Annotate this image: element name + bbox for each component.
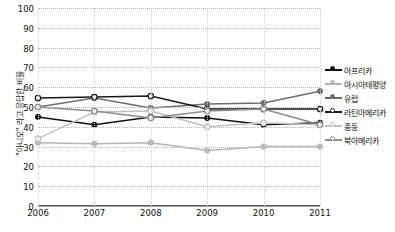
series-아프리카 [35, 114, 322, 127]
legend-marker-icon [325, 77, 342, 91]
y-axis-tick-label: 40 [23, 123, 34, 133]
legend-item-유럽[interactable]: 유럽 [325, 91, 395, 105]
x-axis-tick-label: 2006 [27, 208, 49, 218]
y-axis-tick-label: 30 [23, 143, 34, 153]
y-axis-tick-label: 100 [18, 4, 34, 14]
y-axis-tick-label: 90 [23, 24, 34, 34]
legend-marker-icon [325, 91, 342, 105]
y-gridline: 50 [38, 107, 320, 108]
legend-item-라틴아메리카[interactable]: 라틴아메리카 [325, 105, 395, 119]
legend-item-북아메리카[interactable]: 북아메리카 [325, 133, 395, 147]
y-axis-tick-label: 10 [23, 182, 34, 192]
y-gridline: 20 [38, 166, 320, 167]
legend-marker-icon [325, 105, 342, 119]
legend-label: 북아메리카 [342, 135, 379, 146]
y-axis-tick-label: 60 [23, 83, 34, 93]
legend-marker-icon [325, 119, 342, 133]
x-gridline [151, 8, 152, 206]
x-axis-tick-label: 2009 [196, 208, 218, 218]
y-axis-tick-label: 80 [23, 44, 34, 54]
y-gridline: 30 [38, 147, 320, 148]
y-axis-tick-label: 20 [23, 162, 34, 172]
legend-label: 아시아태평양 [342, 79, 386, 90]
legend-label: 라틴아메리카 [342, 107, 386, 118]
x-gridline [94, 8, 95, 206]
x-axis-tick-label: 2007 [84, 208, 106, 218]
y-gridline: 90 [38, 28, 320, 29]
legend: 아프리카아시아태평양유럽라틴아메리카중동북아메리카 [325, 63, 395, 147]
y-gridline: 60 [38, 87, 320, 88]
x-axis-tick-label: 2008 [140, 208, 162, 218]
y-gridline: 40 [38, 127, 320, 128]
x-gridline [264, 8, 265, 206]
y-gridline: 80 [38, 48, 320, 49]
series-line [38, 91, 320, 108]
x-axis-tick-label: 2010 [253, 208, 275, 218]
y-axis-tick-label: 70 [23, 63, 34, 73]
legend-marker-icon [325, 133, 342, 147]
legend-item-아시아태평양[interactable]: 아시아태평양 [325, 77, 395, 91]
legend-label: 아프리카 [342, 65, 372, 76]
x-gridline [207, 8, 208, 206]
legend-item-아프리카[interactable]: 아프리카 [325, 63, 395, 77]
y-gridline: 70 [38, 67, 320, 68]
x-gridline [38, 8, 39, 206]
y-gridline: 100 [38, 8, 320, 9]
x-gridline [320, 8, 321, 206]
x-axis-tick-label: 2011 [309, 208, 331, 218]
legend-label: 중동 [342, 121, 358, 132]
line-chart: "아니오" 라고 응답한 비율 010203040506070809010020… [0, 0, 395, 232]
y-axis-tick-label: 50 [23, 103, 34, 113]
y-gridline: 0 [38, 206, 320, 207]
legend-item-중동[interactable]: 중동 [325, 119, 395, 133]
legend-label: 유럽 [342, 93, 358, 104]
y-gridline: 10 [38, 186, 320, 187]
legend-marker-icon [325, 63, 342, 77]
plot-area: 0102030405060708090100200620072008200920… [38, 8, 320, 206]
series-라틴아메리카 [35, 93, 322, 111]
